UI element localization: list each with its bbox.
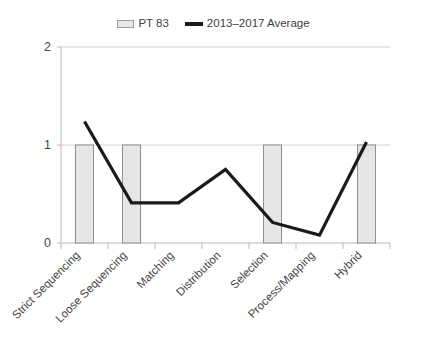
x-axis-ticks (61, 243, 390, 249)
bar-hybrid (358, 145, 376, 243)
y-axis-ticks (57, 47, 61, 243)
x-category-label-distribution: Distribution (174, 249, 223, 298)
y-tick-label-1: 1 (44, 138, 51, 152)
bar-strict-sequencing (76, 145, 94, 243)
plot-area: 0 1 2 Strict SequencingLoose SequencingM… (0, 0, 427, 347)
x-category-label-hybrid: Hybrid (332, 249, 364, 281)
gridlines (61, 47, 390, 145)
y-tick-label-2: 2 (44, 40, 51, 54)
x-category-label-selection: Selection (228, 249, 270, 291)
bar-series-pt83 (76, 145, 376, 243)
chart-svg: 0 1 2 Strict SequencingLoose SequencingM… (0, 0, 427, 347)
chart-container: PT 83 2013–2017 Average 0 (0, 0, 427, 347)
y-tick-label-0: 0 (44, 236, 51, 250)
x-axis-category-labels: Strict SequencingLoose SequencingMatchin… (10, 249, 364, 325)
x-category-label-matching: Matching (134, 249, 175, 290)
bar-selection (264, 145, 282, 243)
